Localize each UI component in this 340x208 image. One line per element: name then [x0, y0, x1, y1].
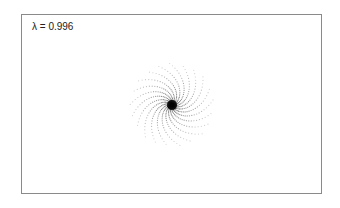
plot-frame: λ = 0.996 — [21, 14, 322, 194]
scatter-plot — [22, 15, 323, 195]
lambda-label: λ = 0.996 — [32, 21, 73, 32]
